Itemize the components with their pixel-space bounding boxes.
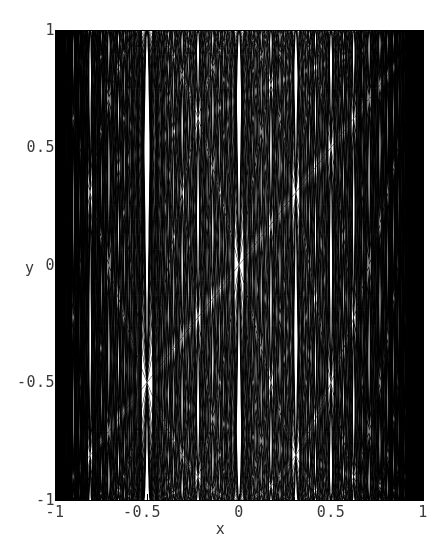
x-tick-minor [386,497,387,500]
x-tick-label-m0p5: -0.5 [117,505,167,520]
curve-canvas [55,30,423,500]
x-tick-minor [184,497,185,500]
x-tick-minor [313,497,314,500]
y-tick-label-0: 0 [45,258,55,273]
x-tick-minor [129,497,130,500]
x-tick-minor [221,497,222,500]
x-tick-label-0p5: 0.5 [306,505,356,520]
y-tick-major [55,383,61,384]
x-tick-minor [110,497,111,500]
x-tick-label-0: 0 [219,505,259,520]
y-tick-major [55,500,61,501]
y-axis-title: y [25,261,35,276]
y-tick-major [55,148,61,149]
y-tick-minor [55,218,58,219]
x-tick-minor [165,497,166,500]
x-tick-minor [368,497,369,500]
x-tick-major [331,494,332,500]
y-tick-label-0p5: 0.5 [26,140,55,155]
x-tick-major [423,494,424,500]
y-tick-label-1: 1 [45,23,55,38]
x-tick-major [147,494,148,500]
y-tick-minor [55,171,58,172]
y-tick-minor [55,242,58,243]
x-tick-minor [294,497,295,500]
x-axis-title: x [0,522,441,537]
y-tick-minor [55,453,58,454]
x-tick-minor [349,497,350,500]
axis-frame-top [55,30,424,31]
y-tick-minor [55,336,58,337]
y-tick-major [55,30,61,31]
y-tick-major [55,265,61,266]
chebyshev-plot-figure: 1 0.5 0 -0.5 -1 -1 -0.5 0 0.5 1 x y [0,0,441,550]
y-tick-minor [55,195,58,196]
y-tick-minor [55,430,58,431]
axis-frame-right [423,30,424,501]
x-tick-minor [257,497,258,500]
y-tick-minor [55,124,58,125]
y-tick-minor [55,406,58,407]
y-tick-minor [55,312,58,313]
axis-frame-bottom [55,500,424,501]
y-tick-minor [55,77,58,78]
x-tick-minor [92,497,93,500]
plot-area [55,30,423,500]
y-tick-minor [55,477,58,478]
x-tick-label-1: 1 [403,505,441,520]
x-tick-minor [405,497,406,500]
y-tick-minor [55,289,58,290]
x-tick-minor [73,497,74,500]
x-tick-major [239,494,240,500]
x-tick-minor [276,497,277,500]
x-tick-minor [202,497,203,500]
y-tick-minor [55,101,58,102]
y-tick-label-m0p5: -0.5 [17,375,55,390]
y-tick-minor [55,54,58,55]
x-tick-label-m1: -1 [35,505,75,520]
x-tick-major [55,494,56,500]
y-tick-minor [55,359,58,360]
